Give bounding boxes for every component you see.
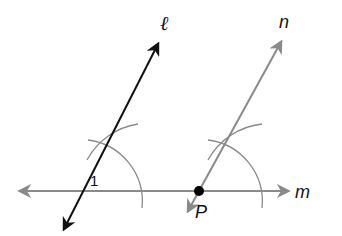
label-angle-1: 1: [90, 172, 98, 189]
line-l: [64, 44, 158, 229]
line-n: [188, 42, 281, 211]
point-p: [194, 186, 204, 196]
label-line-n: n: [279, 12, 289, 32]
construction-arc-small-left: [87, 124, 138, 160]
label-line-m: m: [295, 182, 310, 202]
construction-arc-large-right: [208, 140, 262, 208]
label-point-p: P: [195, 202, 207, 222]
label-line-l: ℓ: [160, 11, 169, 35]
parallel-line-construction-diagram: ℓ n m P 1: [0, 0, 342, 236]
